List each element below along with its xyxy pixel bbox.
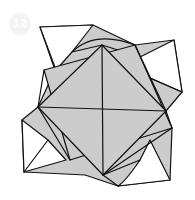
fold-illustration: [0, 0, 195, 200]
origami-diagram: 12: [0, 0, 195, 200]
